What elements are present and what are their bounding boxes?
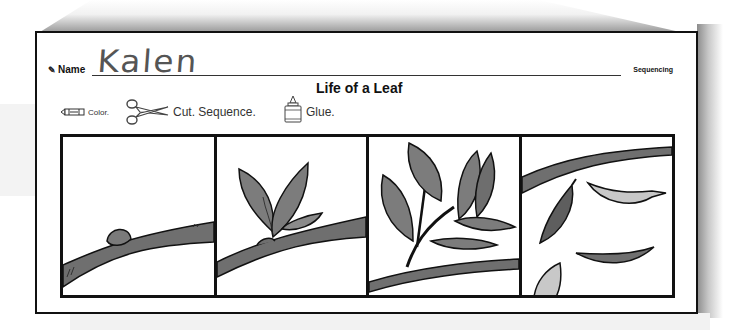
full-grown-leaves-illustration [369, 137, 519, 295]
name-row: ✎ Name Kalen Sequencing [48, 63, 673, 77]
name-field[interactable]: Kalen [96, 43, 200, 79]
pencil-mark-icon: ✎ [48, 65, 56, 75]
instruction-glue: Glue. [283, 100, 335, 124]
panel-bud[interactable] [63, 137, 214, 295]
background-floor [70, 313, 710, 330]
instructions-row: Color. Cut. Sequence. Glue. [60, 100, 380, 124]
page-shadow-top [40, 0, 680, 32]
page-shadow-right [697, 24, 723, 318]
background-panel [0, 104, 36, 196]
scissors-icon [126, 98, 170, 126]
branch-with-bud-illustration [63, 137, 214, 295]
instruction-label: Color. [88, 108, 109, 117]
instruction-label: Cut. Sequence. [173, 105, 256, 119]
crayon-icon [60, 107, 86, 117]
instruction-color: Color. [60, 100, 109, 124]
panel-sprouting[interactable] [214, 137, 366, 295]
instruction-cut-sequence: Cut. Sequence. [126, 100, 256, 124]
falling-leaves-illustration [522, 137, 672, 295]
sequence-panels [60, 134, 675, 298]
worksheet-title: Life of a Leaf [316, 80, 402, 96]
name-label: Name [58, 64, 85, 75]
panel-falling-leaves[interactable] [519, 137, 672, 295]
instruction-label: Glue. [306, 105, 335, 119]
glue-bottle-icon [283, 95, 303, 123]
subject-tag: Sequencing [633, 66, 673, 73]
sprouting-leaves-illustration [217, 137, 366, 295]
panel-full-leaves[interactable] [366, 137, 519, 295]
